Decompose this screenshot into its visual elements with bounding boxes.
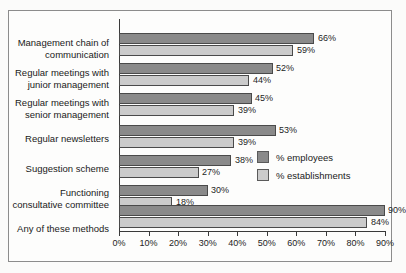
x-axis-tick-label: 60%: [287, 238, 305, 248]
bar-value-label: 45%: [255, 93, 273, 104]
bar-establishments: [119, 167, 199, 178]
x-axis-tick: [296, 231, 297, 236]
chart-figure: Management chain of communication Regula…: [8, 10, 392, 262]
category-label: Regular newsletters: [25, 133, 109, 145]
bar-value-label: 44%: [253, 75, 271, 86]
legend-label: % establishments: [276, 170, 350, 181]
x-axis-line: [119, 231, 386, 232]
x-axis-tick-label: 30%: [199, 238, 217, 248]
x-axis-tick-label: 20%: [169, 238, 187, 248]
bar-value-label: 66%: [318, 33, 336, 44]
bar-employees: [119, 155, 231, 166]
bar-establishments: [119, 75, 249, 86]
bar-employees: [119, 33, 314, 44]
plot-area: 66% 59% 52% 44% 45% 39% 53% 39%: [119, 19, 385, 231]
bar-employees: [119, 93, 252, 104]
bar-value-label: 39%: [238, 105, 256, 116]
category-label: Regular meetings with senior management: [15, 97, 109, 120]
bar-value-label: 38%: [235, 155, 253, 166]
x-axis-tick-label: 10%: [140, 238, 158, 248]
bar-employees: [119, 185, 208, 196]
legend-swatch-establishments: [257, 169, 269, 181]
x-axis-tick: [208, 231, 209, 236]
bar-value-label: 30%: [211, 185, 229, 196]
bar-value-label: 90%: [388, 205, 406, 216]
legend-item-establishments: % establishments: [257, 169, 350, 181]
category-label: Management chain of communication: [18, 37, 109, 60]
x-axis-tick: [326, 231, 327, 236]
category-label: Functioning consultative committee: [12, 187, 109, 210]
x-axis-tick: [178, 231, 179, 236]
bar-establishments: [119, 137, 234, 148]
x-axis-tick: [355, 231, 356, 236]
x-axis-tick-label: 50%: [258, 238, 276, 248]
category-label: Any of these methods: [17, 223, 109, 235]
x-axis-tick: [149, 231, 150, 236]
bar-value-label: 27%: [202, 167, 220, 178]
bar-establishments: [119, 105, 234, 116]
x-axis-tick-label: 80%: [346, 238, 364, 248]
bar-value-label: 59%: [297, 45, 315, 56]
x-axis-tick-label: 70%: [317, 238, 335, 248]
x-axis-tick-label: 40%: [228, 238, 246, 248]
legend-item-employees: % employees: [257, 151, 350, 163]
bar-employees: [119, 125, 276, 136]
bar-employees: [119, 63, 273, 74]
bar-establishments: [119, 217, 367, 228]
x-axis-tick: [385, 231, 386, 236]
category-label: Regular meetings with junior management: [15, 67, 109, 90]
bar-value-label: 53%: [279, 125, 297, 136]
bar-employees: [119, 205, 385, 216]
x-axis-tick: [119, 231, 120, 236]
bar-establishments: [119, 45, 293, 56]
category-label: Suggestion scheme: [26, 163, 109, 175]
bar-value-label: 39%: [238, 137, 256, 148]
bar-value-label: 84%: [371, 217, 389, 228]
x-axis-tick-label: 90%: [376, 238, 394, 248]
x-axis-tick-label: 0%: [112, 238, 125, 248]
legend-swatch-employees: [257, 151, 269, 163]
legend-label: % employees: [276, 152, 333, 163]
x-axis-tick: [237, 231, 238, 236]
x-axis-tick: [267, 231, 268, 236]
chart-legend: % employees % establishments: [257, 151, 350, 187]
bar-value-label: 52%: [276, 63, 294, 74]
